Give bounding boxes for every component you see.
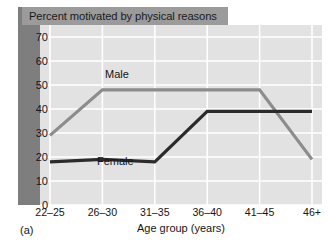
x-axis-tick-label: 36–40 xyxy=(192,206,221,218)
series-line-male xyxy=(50,90,312,160)
x-axis-tick-label: 41–45 xyxy=(245,206,274,218)
plot-area xyxy=(40,25,322,205)
y-axis-tick-label: 50 xyxy=(36,79,48,91)
chart-title-banner: Percent motivated by physical reasons xyxy=(22,7,228,25)
y-axis-tick-label: 60 xyxy=(36,55,48,67)
x-axis-tick-label: 22–25 xyxy=(35,206,64,218)
x-axis-tick-label: 31–35 xyxy=(140,206,169,218)
vertical-gridlines xyxy=(50,25,312,205)
figure-panel-a: Percent motivated by physical reasons 01… xyxy=(0,0,328,245)
series-label-male: Male xyxy=(105,68,129,80)
x-axis-tick-label: 46+ xyxy=(303,206,321,218)
line-chart-svg xyxy=(40,25,322,205)
series-polylines xyxy=(50,90,312,162)
x-axis-tick-labels: 22–2526–3031–3536–4041–4546+ xyxy=(40,206,322,222)
x-axis-title: Age group (years) xyxy=(40,222,322,234)
y-axis-tick-label: 20 xyxy=(36,151,48,163)
y-axis-tick-label: 70 xyxy=(36,31,48,43)
figure-caption-label: (a) xyxy=(20,224,33,236)
series-line-female xyxy=(50,111,312,161)
y-axis-tick-labels: 010203040506070 xyxy=(26,25,48,205)
y-axis-tick-label: 40 xyxy=(36,103,48,115)
horizontal-gridlines xyxy=(40,37,322,205)
series-label-female: Female xyxy=(97,155,134,167)
x-axis-tick-label: 26–30 xyxy=(88,206,117,218)
page-title: Percent motivated by physical reasons xyxy=(29,10,217,22)
y-axis-tick-label: 30 xyxy=(36,127,48,139)
y-axis-tick-label: 10 xyxy=(36,175,48,187)
